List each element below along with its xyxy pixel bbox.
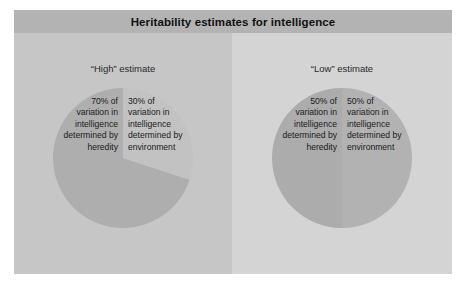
pie-label-heredity-low: 50% of variation in intelligence determi… <box>224 96 342 153</box>
page-title: Heritability estimates for intelligence <box>131 16 336 28</box>
pie-label-environment-low: 50% of variation in intelligence determi… <box>342 96 460 153</box>
pie-chart-high-labels: 70% of variation in intelligence determi… <box>1 96 245 176</box>
panel-low-estimate: “Low” estimate 50% of variation in intel… <box>232 33 452 274</box>
figure-title-band: Heritability estimates for intelligence <box>14 10 452 33</box>
pie-chart-low-labels: 50% of variation in intelligence determi… <box>220 96 464 176</box>
pie-chart-high: 70% of variation in intelligence determi… <box>53 88 193 228</box>
pie-chart-low: 50% of variation in intelligence determi… <box>272 88 412 228</box>
panel-high-estimate: “High” estimate 70% of variation in inte… <box>14 33 232 274</box>
panel-label-low: “Low” estimate <box>232 63 452 74</box>
pie-label-heredity-high: 70% of variation in intelligence determi… <box>5 96 123 153</box>
panel-label-high: “High” estimate <box>14 63 232 74</box>
figure-container: Heritability estimates for intelligence … <box>14 10 452 274</box>
